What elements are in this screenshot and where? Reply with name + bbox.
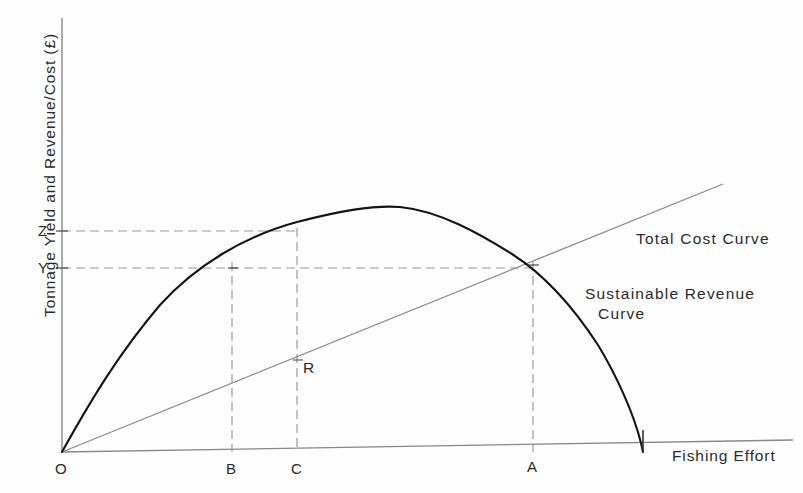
- x-tick-label-a: A: [527, 458, 538, 475]
- y-axis-label: Tonnage Yield and Revenue/Cost (£): [41, 15, 59, 335]
- x-axis-label: Fishing Effort: [672, 447, 776, 465]
- annotation-total-cost-curve: Total Cost Curve: [636, 229, 770, 248]
- x-tick-label-c: C: [291, 460, 302, 477]
- y-tick-label-y: Y: [38, 259, 49, 276]
- x-tick-label-o: O: [55, 460, 67, 477]
- y-axis-label-wrapper: Tonnage Yield and Revenue/Cost (£): [41, 15, 65, 335]
- annotation-sustainable-revenue-curve-line2: Curve: [598, 304, 645, 323]
- x-tick-label-b: B: [226, 460, 237, 477]
- figure-canvas: Tonnage Yield and Revenue/Cost (£) Z Y O…: [0, 0, 803, 493]
- annotation-sustainable-revenue-curve-line1: Sustainable Revenue: [585, 284, 755, 303]
- sustainable-revenue-curve: [62, 207, 643, 452]
- y-tick-label-z: Z: [38, 222, 48, 239]
- point-label-r: R: [303, 359, 315, 377]
